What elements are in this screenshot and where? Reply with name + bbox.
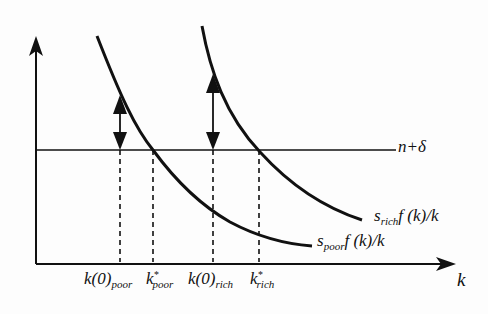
tick-kstar-poor: k*poor [146, 270, 173, 290]
tick-k0-poor: k(0)poor [84, 270, 132, 290]
dashed-guides [120, 150, 259, 262]
x-axis-label: k [457, 270, 465, 289]
rich-curve [202, 26, 362, 220]
diagram-canvas [0, 0, 488, 314]
n-plus-delta-label: n+δ [398, 138, 426, 155]
tick-kstar-rich: k*rich [250, 270, 274, 290]
solow-diagram: n+δ srichf (k)/k spoorf (k)/k k(0)poor k… [0, 0, 488, 314]
poor-curve-label: spoorf (k)/k [317, 232, 385, 252]
poor-curve [97, 36, 312, 246]
tick-k0-rich: k(0)rich [188, 270, 233, 290]
rich-curve-label: srichf (k)/k [374, 207, 438, 227]
